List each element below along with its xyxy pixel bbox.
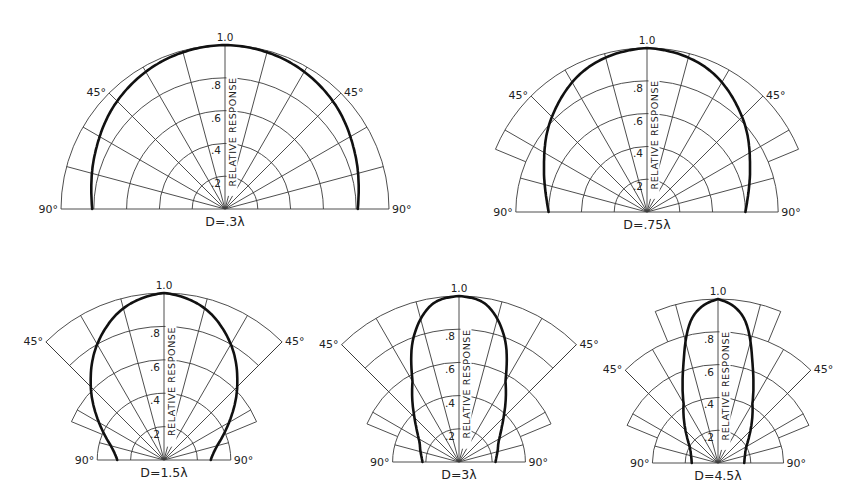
angle-label-90: 90°	[630, 457, 650, 470]
grid-edge	[655, 311, 668, 341]
spoke-30	[164, 315, 248, 460]
plot-caption: D=.75λ	[623, 217, 671, 232]
radial-tick-label: 1.0	[639, 34, 656, 46]
spoke--60	[83, 127, 225, 209]
radial-axis-title: RELATIVE RESPONSE	[720, 331, 731, 440]
polar-plot-1: .2.4.6.81.0RELATIVE RESPONSE45°45°90°90°…	[39, 31, 412, 229]
angle-label-90: 90°	[781, 206, 801, 219]
angle-label-90: 90°	[787, 457, 807, 470]
spoke--60	[505, 130, 647, 212]
angle-label-90: 90°	[234, 454, 254, 467]
angle-label-45: 45°	[509, 89, 529, 102]
radial-tick-label: .4	[150, 394, 160, 406]
radial-tick-label: .2	[633, 180, 643, 192]
spoke-60	[718, 414, 803, 463]
angle-label-45: 45°	[319, 338, 339, 351]
grid-edge	[342, 345, 365, 368]
grid-edge	[768, 149, 798, 162]
radial-tick-label: .6	[445, 363, 455, 375]
grid-edge	[768, 311, 781, 341]
grid-edge	[495, 149, 525, 162]
angle-label-45: 45°	[87, 86, 107, 99]
radial-tick-label: .6	[704, 366, 714, 378]
plot-caption: D=4.5λ	[694, 468, 742, 483]
radial-tick-label: .8	[445, 330, 455, 342]
radial-tick-label: .4	[704, 398, 714, 410]
angle-label-90: 90°	[528, 456, 548, 469]
plot-caption: D=.3λ	[205, 214, 245, 229]
grid-edge	[553, 345, 576, 368]
grid-edge	[788, 370, 811, 393]
radial-tick-label: .8	[150, 327, 160, 339]
polar-plot-5: .2.4.6.81.0RELATIVE RESPONSE45°45°90°90°…	[603, 285, 834, 483]
spoke--45	[109, 93, 225, 209]
angle-label-45: 45°	[344, 86, 364, 99]
radial-tick-label: 1.0	[156, 279, 173, 291]
spoke-60	[647, 130, 789, 212]
grid-edge	[365, 368, 388, 391]
grid-edge	[71, 422, 102, 435]
radial-tick-label: 1.0	[710, 285, 727, 297]
polar-plot-3: .2.4.6.81.0RELATIVE RESPONSE45°45°90°90°…	[23, 279, 304, 480]
grid-edge	[627, 425, 657, 438]
angle-label-90: 90°	[493, 206, 513, 219]
spoke-45	[647, 96, 763, 212]
radial-tick-label: .2	[211, 177, 221, 189]
radial-axis-title: RELATIVE RESPONSE	[461, 329, 472, 438]
plot-caption: D=3λ	[441, 467, 477, 482]
polar-plots-figure: .2.4.6.81.0RELATIVE RESPONSE45°45°90°90°…	[0, 0, 860, 503]
radial-tick-label: .8	[211, 79, 221, 91]
radial-tick-label: .8	[633, 82, 643, 94]
radial-tick-label: .4	[445, 397, 455, 409]
radial-tick-label: 1.0	[217, 31, 234, 43]
grid-edge	[529, 368, 552, 391]
angle-label-45: 45°	[579, 338, 599, 351]
radial-tick-label: .2	[150, 428, 160, 440]
plot-caption: D=1.5λ	[140, 465, 188, 480]
grid-edge	[226, 422, 257, 435]
radial-tick-label: 1.0	[451, 282, 468, 294]
spoke--45	[531, 96, 647, 212]
radial-tick-label: .6	[150, 361, 160, 373]
radial-tick-label: .4	[211, 144, 221, 156]
spoke-60	[164, 410, 251, 460]
grid-edge	[625, 370, 648, 393]
radial-tick-label: .6	[633, 115, 643, 127]
angle-label-90: 90°	[392, 203, 412, 216]
radial-axis-title: RELATIVE RESPONSE	[649, 80, 660, 189]
spoke-60	[225, 127, 367, 209]
spoke--75	[655, 446, 718, 463]
radial-tick-label: .2	[704, 431, 714, 443]
spoke-45	[225, 93, 341, 209]
radial-axis-title: RELATIVE RESPONSE	[227, 77, 238, 186]
angle-label-90: 90°	[75, 454, 95, 467]
radial-tick-label: .6	[211, 112, 221, 124]
radial-axis-title: RELATIVE RESPONSE	[166, 327, 177, 436]
angle-label-45: 45°	[766, 89, 786, 102]
angle-label-45: 45°	[23, 335, 43, 348]
polar-plot-4: .2.4.6.81.0RELATIVE RESPONSE45°45°90°90°…	[319, 282, 599, 482]
grid-edge	[520, 424, 551, 437]
radial-tick-label: .2	[445, 430, 455, 442]
spoke-75	[647, 178, 774, 212]
angle-label-45: 45°	[603, 363, 623, 376]
angle-label-45: 45°	[285, 335, 305, 348]
grid-edge	[779, 425, 809, 438]
radial-tick-label: .4	[633, 147, 643, 159]
grid-edge	[258, 342, 282, 366]
spoke--75	[395, 445, 459, 462]
polar-plot-2: .2.4.6.81.0RELATIVE RESPONSE45°45°90°90°…	[493, 34, 800, 232]
angle-label-90: 90°	[370, 456, 390, 469]
angle-label-90: 90°	[39, 203, 59, 216]
grid-edge	[46, 342, 70, 366]
spoke--75	[520, 178, 647, 212]
grid-edge	[367, 424, 398, 437]
radial-tick-label: .8	[704, 333, 714, 345]
angle-label-45: 45°	[814, 363, 834, 376]
